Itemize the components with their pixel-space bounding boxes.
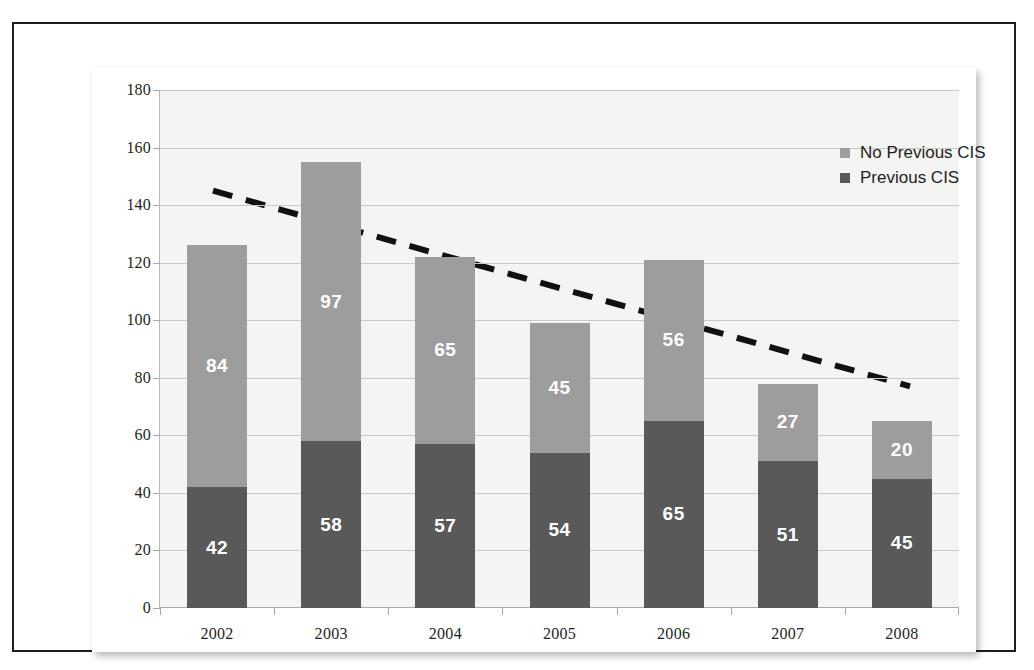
x-axis-tick-label: 2007 bbox=[771, 625, 804, 643]
bar-segment-previous-cis[interactable]: 42 bbox=[187, 487, 247, 608]
y-axis-tick-mark bbox=[153, 608, 160, 609]
bar-column[interactable]: 2751 bbox=[758, 384, 818, 608]
x-axis-tick-mark bbox=[958, 608, 959, 615]
bar-segment-no-previous-cis[interactable]: 45 bbox=[530, 323, 590, 453]
legend-item-previous-cis[interactable]: Previous CIS bbox=[840, 165, 986, 190]
x-axis-tick-mark bbox=[845, 608, 846, 615]
y-axis-tick-mark bbox=[153, 263, 160, 264]
x-axis-tick-label: 2002 bbox=[200, 625, 233, 643]
y-axis-tick-label: 160 bbox=[95, 139, 151, 157]
x-axis-tick-mark bbox=[388, 608, 389, 615]
bar-segment-previous-cis[interactable]: 51 bbox=[758, 461, 818, 608]
x-axis-tick-label: 2008 bbox=[885, 625, 918, 643]
y-axis-tick-mark bbox=[153, 378, 160, 379]
outer-frame-border: 0204060801001201401601808442200297582003… bbox=[12, 22, 1016, 652]
bar-column[interactable]: 6557 bbox=[415, 257, 475, 608]
bar-segment-previous-cis[interactable]: 45 bbox=[872, 479, 932, 609]
bar-segment-previous-cis[interactable]: 65 bbox=[644, 421, 704, 608]
y-axis-tick-mark bbox=[153, 550, 160, 551]
gridline bbox=[160, 263, 959, 264]
bar-column[interactable]: 5665 bbox=[644, 260, 704, 608]
legend-item-no-previous-cis[interactable]: No Previous CIS bbox=[840, 140, 986, 165]
y-axis-tick-mark bbox=[153, 320, 160, 321]
legend-item-label: Previous CIS bbox=[860, 168, 959, 188]
bar-segment-no-previous-cis[interactable]: 97 bbox=[301, 162, 361, 441]
legend-swatch-icon bbox=[840, 148, 850, 158]
bar-segment-no-previous-cis[interactable]: 65 bbox=[415, 257, 475, 444]
bar-segment-no-previous-cis[interactable]: 20 bbox=[872, 421, 932, 479]
y-axis-tick-label: 80 bbox=[95, 369, 151, 387]
plot-area: 0204060801001201401601808442200297582003… bbox=[159, 90, 959, 608]
x-axis-tick-mark bbox=[731, 608, 732, 615]
x-axis-tick-label: 2006 bbox=[657, 625, 690, 643]
y-axis-tick-mark bbox=[153, 90, 160, 91]
x-axis-tick-mark bbox=[160, 608, 161, 615]
x-axis-tick-mark bbox=[502, 608, 503, 615]
bar-segment-previous-cis[interactable]: 57 bbox=[415, 444, 475, 608]
y-axis-tick-mark bbox=[153, 493, 160, 494]
x-axis-tick-label: 2003 bbox=[315, 625, 348, 643]
legend-swatch-icon bbox=[840, 173, 850, 183]
bar-segment-no-previous-cis[interactable]: 84 bbox=[187, 245, 247, 487]
x-axis-tick-mark bbox=[274, 608, 275, 615]
bar-column[interactable]: 4554 bbox=[530, 323, 590, 608]
bar-column[interactable]: 9758 bbox=[301, 162, 361, 608]
chart-legend: No Previous CIS Previous CIS bbox=[840, 140, 986, 190]
x-axis-tick-mark bbox=[617, 608, 618, 615]
y-axis-tick-label: 40 bbox=[95, 484, 151, 502]
y-axis-tick-label: 0 bbox=[95, 599, 151, 617]
gridline bbox=[160, 90, 959, 91]
y-axis-tick-mark bbox=[153, 435, 160, 436]
y-axis-tick-label: 20 bbox=[95, 541, 151, 559]
bar-column[interactable]: 2045 bbox=[872, 421, 932, 608]
legend-item-label: No Previous CIS bbox=[860, 143, 986, 163]
gridline bbox=[160, 320, 959, 321]
x-axis-tick-label: 2005 bbox=[543, 625, 576, 643]
y-axis-tick-label: 140 bbox=[95, 196, 151, 214]
y-axis-tick-label: 100 bbox=[95, 311, 151, 329]
bar-segment-previous-cis[interactable]: 54 bbox=[530, 453, 590, 608]
page-root: 0204060801001201401601808442200297582003… bbox=[0, 0, 1034, 670]
bar-segment-previous-cis[interactable]: 58 bbox=[301, 441, 361, 608]
y-axis-tick-mark bbox=[153, 205, 160, 206]
bar-segment-no-previous-cis[interactable]: 27 bbox=[758, 384, 818, 462]
y-axis-tick-label: 60 bbox=[95, 426, 151, 444]
gridline bbox=[160, 205, 959, 206]
bar-segment-no-previous-cis[interactable]: 56 bbox=[644, 260, 704, 421]
chart-card: 0204060801001201401601808442200297582003… bbox=[92, 68, 976, 652]
x-axis-tick-label: 2004 bbox=[429, 625, 462, 643]
y-axis-tick-mark bbox=[153, 148, 160, 149]
y-axis-tick-label: 180 bbox=[95, 81, 151, 99]
y-axis-tick-label: 120 bbox=[95, 254, 151, 272]
bar-column[interactable]: 8442 bbox=[187, 245, 247, 608]
